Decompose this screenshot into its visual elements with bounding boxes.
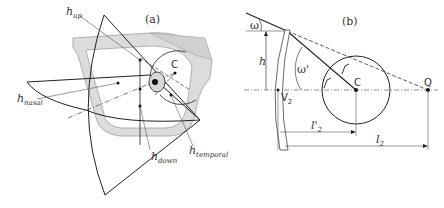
label-l2-sub: 2: [380, 140, 384, 148]
diagram-figure: (a) hup hnasal hdown htemporal C (b) ω ω…: [0, 0, 444, 208]
panel-a-drawing: [27, 15, 212, 195]
label-h-up: hup: [66, 6, 82, 20]
label-c-a: C: [171, 60, 178, 70]
label-h-nasal: hnasal: [17, 93, 43, 107]
diagram-svg: [0, 0, 444, 208]
label-omega-prime: ω': [297, 64, 309, 75]
label-omega: ω: [250, 20, 259, 31]
label-v2-base: V: [281, 92, 288, 103]
label-c-b: C: [354, 78, 361, 88]
label-h-down-sub: down: [158, 157, 177, 165]
label-v2-sub: 2: [288, 98, 292, 106]
label-h-temporal: htemporal: [189, 145, 228, 159]
panel-b-label: (b): [342, 16, 358, 27]
label-h: h: [259, 56, 266, 67]
label-h-up-sub: up: [73, 12, 82, 20]
panel-a-label: (a): [145, 14, 160, 25]
label-h-nasal-sub: nasal: [24, 99, 43, 107]
label-h-down: hdown: [151, 151, 177, 165]
panel-b-drawing: [244, 13, 438, 150]
label-q: Q: [424, 78, 432, 88]
label-l2-prime: l'2: [311, 120, 322, 134]
label-l2: l2: [376, 134, 384, 148]
label-l2-prime-sub: 2: [318, 126, 322, 134]
label-h-temporal-sub: temporal: [196, 151, 228, 159]
label-v2: V2: [281, 93, 292, 106]
